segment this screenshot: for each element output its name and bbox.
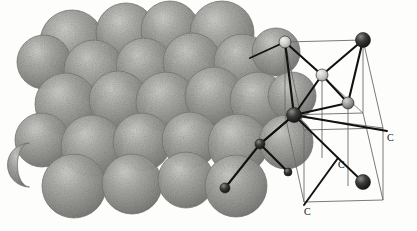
atom [279,36,291,48]
sphere [252,28,300,76]
sphere [42,154,106,218]
atom [342,97,354,109]
space-filling-sphere-cluster [15,1,316,218]
cell-edge [304,200,383,202]
bond [348,40,363,103]
cell-edge [363,40,383,128]
carbon-label: C [304,207,311,217]
atom [284,168,292,176]
atom [255,139,265,149]
atom [287,108,302,123]
figure-canvas: CCC [0,0,417,231]
carbon-label: C [338,160,345,170]
figure-svg [0,0,417,231]
atom [356,33,371,48]
sphere [205,155,267,217]
sphere [102,154,162,214]
atom [316,69,328,81]
bond [304,158,338,205]
atom [356,175,371,190]
carbon-label: C [387,133,394,143]
atom [220,183,230,193]
